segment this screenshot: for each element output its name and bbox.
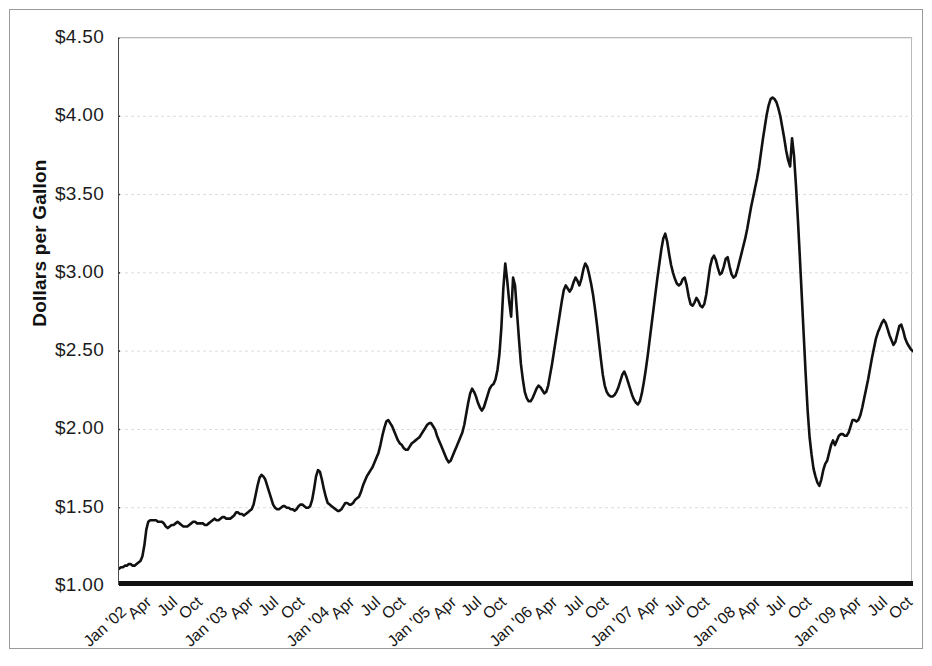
figure-container: Dollars per Gallon $4.50$4.00$3.50$3.00$… (0, 0, 932, 666)
x-axis-tick-labels: Jan '02AprJulOctJan '03AprJulOctJan '04A… (0, 0, 932, 666)
